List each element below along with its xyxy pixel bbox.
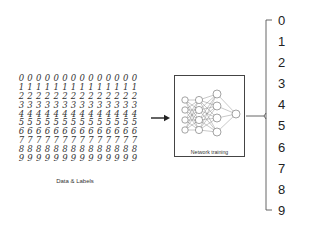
digit-row-9: 99999999999999 [17,154,139,163]
handwritten-digit-sample: 9 [34,154,43,163]
handwritten-digit-sample: 9 [69,154,78,163]
handwritten-digit-sample: 9 [87,154,96,163]
output-class-9: 9 [278,200,285,221]
handwritten-digit-sample: 9 [130,154,139,163]
handwritten-digit-sample: 9 [78,154,87,163]
output-class-list: 0123456789 [278,10,285,221]
output-class-2: 2 [278,52,285,73]
handwritten-digit-sample: 9 [121,154,130,163]
handwritten-digit-sample: 9 [52,154,61,163]
output-bracket [244,0,278,226]
output-class-3: 3 [278,73,285,94]
output-class-0: 0 [278,10,285,31]
output-class-8: 8 [278,179,285,200]
network-training-box: Network training [174,75,245,157]
output-class-7: 7 [278,158,285,179]
neural-network-icon [179,86,241,144]
handwritten-digit-sample: 9 [26,154,35,163]
handwritten-digit-sample: 9 [104,154,113,163]
output-class-6: 6 [278,137,285,158]
output-class-4: 4 [278,94,285,115]
handwritten-digit-sample: 9 [61,154,70,163]
handwritten-digit-sample: 9 [43,154,52,163]
handwritten-digits-grid: 0000000000000011111111111111222222222222… [17,74,139,163]
handwritten-digit-sample: 9 [17,154,26,163]
output-class-1: 1 [278,31,285,52]
network-training-label: Network training [175,149,244,155]
handwritten-digit-sample: 9 [95,154,104,163]
output-class-5: 5 [278,115,285,136]
data-labels-caption: Data & Labels [40,178,110,184]
handwritten-digit-sample: 9 [113,154,122,163]
right-arrow-icon [151,113,171,123]
